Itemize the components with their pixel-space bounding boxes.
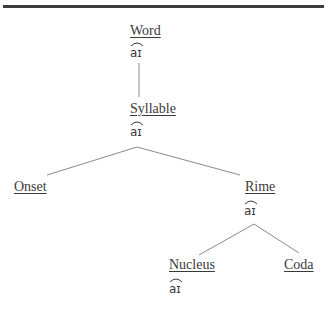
- node-word: Word: [130, 24, 161, 38]
- node-nucleus: Nucleus: [169, 258, 215, 272]
- ipa-rime: aɪ: [244, 205, 256, 217]
- tie-bar-icon: [130, 120, 144, 126]
- node-onset: Onset: [14, 180, 47, 194]
- ipa-nucleus: aɪ: [169, 283, 181, 295]
- tie-bar-icon: [244, 199, 258, 205]
- tie-bar-icon: [130, 41, 144, 47]
- node-rime: Rime: [245, 180, 275, 194]
- edge-rime-nucleus: [199, 224, 254, 255]
- edge-syllable-onset: [47, 147, 137, 175]
- tie-bar-icon: [169, 277, 183, 283]
- tree-edges: [0, 0, 328, 311]
- edge-rime-coda: [254, 224, 299, 253]
- ipa-nucleus-text: aɪ: [169, 282, 181, 296]
- ipa-rime-text: aɪ: [244, 204, 256, 218]
- ipa-word-text: aɪ: [130, 46, 142, 60]
- ipa-word: aɪ: [130, 47, 142, 59]
- node-coda: Coda: [284, 258, 314, 272]
- edge-syllable-rime: [137, 147, 240, 175]
- node-syllable: Syllable: [130, 102, 176, 116]
- ipa-syllable: aɪ: [130, 126, 142, 138]
- ipa-syllable-text: aɪ: [130, 125, 142, 139]
